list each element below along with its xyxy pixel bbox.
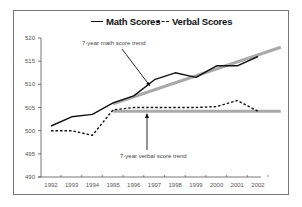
math-trend-line <box>113 47 281 104</box>
verbal-trend-annotation: 7-year verbal score trend <box>120 153 187 159</box>
x-tick-label: 2001 <box>231 182 245 188</box>
legend-item-verbal: Verbal Scores <box>157 16 232 27</box>
x-tick-label: 2002 <box>251 182 265 188</box>
annotations: 7-year math score trend 7-year verbal sc… <box>82 40 187 159</box>
legend-label-verbal: Verbal Scores <box>172 16 232 27</box>
legend-item-math: Math Scores <box>91 16 160 27</box>
x-tick-label: 1999 <box>189 182 203 188</box>
line-chart: 4904955005055105155201992199319941995199… <box>0 0 302 207</box>
y-tick-label: 515 <box>25 58 36 64</box>
solid-line-icon <box>91 21 103 22</box>
legend-label-math: Math Scores <box>106 16 160 27</box>
data-series <box>51 57 258 136</box>
x-tick-label: 1994 <box>86 182 100 188</box>
x-tick-label: 1997 <box>148 182 162 188</box>
y-tick-label: 520 <box>25 35 36 41</box>
x-tick-label: 2000 <box>210 182 224 188</box>
dashed-line-icon <box>157 21 169 22</box>
x-tick-label: 1993 <box>65 182 79 188</box>
math-trend-arrow <box>122 49 150 86</box>
y-tick-label: 495 <box>25 151 36 157</box>
legend: Math Scores Verbal Scores <box>0 16 302 30</box>
x-tick-label: 1992 <box>44 182 58 188</box>
math-trend-annotation: 7-year math score trend <box>82 40 146 46</box>
y-tick-label: 500 <box>25 128 36 134</box>
y-tick-label: 490 <box>25 174 36 180</box>
arrowhead-icon <box>145 113 149 118</box>
y-tick-label: 510 <box>25 81 36 87</box>
x-tick-label: 1995 <box>106 182 120 188</box>
x-tick-label: 1996 <box>127 182 141 188</box>
verbal-scores-line <box>51 101 258 136</box>
y-tick-label: 505 <box>25 105 36 111</box>
x-tick-label: 1998 <box>169 182 183 188</box>
